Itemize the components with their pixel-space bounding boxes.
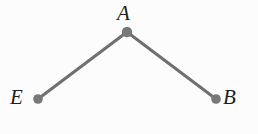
geometry-figure: A E B [0, 0, 258, 134]
vertex-label-e: E [10, 87, 23, 108]
vertex-label-a: A [117, 3, 130, 24]
vertex-node-b [211, 94, 221, 104]
segment-ab [127, 32, 216, 99]
vertex-node-a [122, 27, 132, 37]
vertex-label-b: B [223, 87, 236, 108]
vertex-node-e [33, 94, 43, 104]
segment-ea [38, 32, 127, 99]
